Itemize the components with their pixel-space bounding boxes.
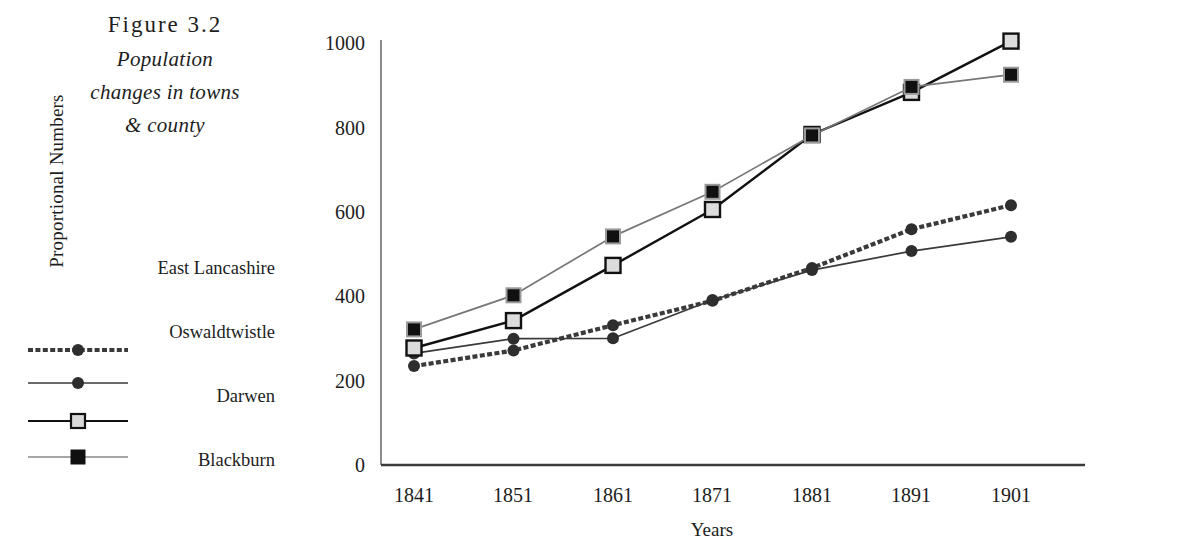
data-point xyxy=(806,264,818,276)
data-point xyxy=(905,80,919,94)
data-point xyxy=(606,258,621,273)
data-point xyxy=(407,341,422,356)
chart-canvas xyxy=(0,0,1177,559)
data-point xyxy=(706,185,720,199)
data-point xyxy=(707,294,719,306)
data-point xyxy=(1004,68,1018,82)
data-point xyxy=(508,345,520,357)
data-point xyxy=(607,332,619,344)
data-point xyxy=(906,223,918,235)
series-east-lancashire xyxy=(408,199,1017,372)
data-point xyxy=(906,245,918,257)
data-point xyxy=(606,229,620,243)
data-point xyxy=(1005,231,1017,243)
data-point xyxy=(1005,199,1017,211)
data-point xyxy=(508,333,520,345)
data-point xyxy=(607,319,619,331)
series-oswaldtwistle xyxy=(408,231,1017,360)
axis-lines xyxy=(381,40,1085,465)
data-point xyxy=(1004,34,1019,49)
data-point xyxy=(507,288,521,302)
data-point xyxy=(805,128,819,142)
data-point xyxy=(506,313,521,328)
data-point xyxy=(705,202,720,217)
data-point xyxy=(408,360,420,372)
figure-root: Figure 3.2 Population changes in towns &… xyxy=(0,0,1177,559)
data-point xyxy=(407,322,421,336)
chart-plot-area: Proportional Numbers 1000 800 600 400 20… xyxy=(0,0,1177,559)
data-series-layer xyxy=(407,34,1019,373)
